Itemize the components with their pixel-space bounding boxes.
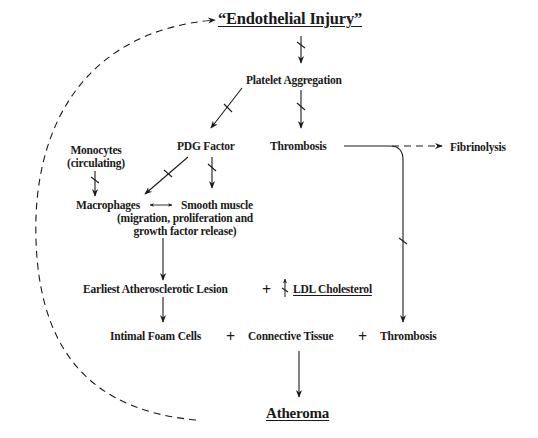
smc-detail-line2: growth factor release) bbox=[95, 225, 275, 238]
node-macrophages: Macrophages bbox=[76, 199, 140, 212]
monocytes-line1: Monocytes bbox=[66, 144, 126, 157]
plus-operator: + bbox=[226, 329, 235, 345]
node-endothelial-injury: “Endothelial Injury” bbox=[218, 10, 362, 28]
node-thrombosis-top: Thrombosis bbox=[270, 140, 327, 153]
node-platelet-aggregation: Platelet Aggregation bbox=[246, 74, 342, 87]
edge-platelet-pdg bbox=[211, 88, 242, 128]
node-thrombosis-bottom: Thrombosis bbox=[380, 330, 437, 343]
node-fibrinolysis: Fibrinolysis bbox=[450, 141, 506, 154]
node-earliest-lesion: Earliest Atherosclerotic Lesion bbox=[83, 283, 228, 296]
node-atheroma: Atheroma bbox=[266, 404, 329, 422]
node-pdg-factor: PDG Factor bbox=[177, 140, 235, 153]
node-connective-tissue: Connective Tissue bbox=[248, 330, 333, 343]
plus-operator: + bbox=[358, 329, 367, 345]
node-smc-detail: (migration, proliferation and growth fac… bbox=[95, 212, 275, 238]
monocytes-line2: (circulating) bbox=[66, 157, 126, 170]
node-intimal-foam-cells: Intimal Foam Cells bbox=[110, 330, 201, 343]
node-ldl-cholesterol: LDL Cholesterol bbox=[293, 283, 372, 296]
edge-thrombosis-down bbox=[390, 146, 403, 322]
plus-operator: + bbox=[262, 282, 271, 298]
node-smooth-muscle: Smooth muscle bbox=[181, 199, 253, 212]
edge-pdg-macrophages bbox=[145, 157, 188, 194]
node-monocytes: Monocytes (circulating) bbox=[66, 144, 126, 170]
smc-detail-line1: (migration, proliferation and bbox=[95, 212, 275, 225]
